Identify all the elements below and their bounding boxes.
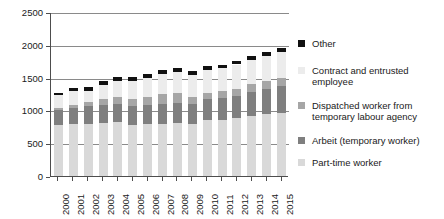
x-tick-label: 2002: [91, 194, 101, 215]
bar-segment[interactable]: [203, 120, 212, 176]
bar-segment[interactable]: [84, 87, 93, 91]
bar-segment[interactable]: [173, 103, 182, 123]
bar-segment[interactable]: [232, 89, 241, 96]
bar-segment[interactable]: [128, 106, 137, 124]
bar-segment[interactable]: [277, 78, 286, 87]
bar-segment[interactable]: [69, 88, 78, 91]
bar-segment[interactable]: [158, 74, 167, 94]
bar-segment[interactable]: [247, 56, 256, 60]
bar-segment[interactable]: [128, 81, 137, 99]
bar-segment[interactable]: [99, 81, 108, 85]
bar-segment[interactable]: [218, 120, 227, 176]
bar-segment[interactable]: [262, 56, 271, 81]
bar-segment[interactable]: [173, 68, 182, 72]
bar-segment[interactable]: [84, 124, 93, 176]
bar-segment[interactable]: [247, 92, 256, 116]
bar-segment[interactable]: [277, 113, 286, 176]
bar-segment[interactable]: [143, 74, 152, 78]
bar-segment[interactable]: [173, 72, 182, 93]
bar-segment[interactable]: [218, 98, 227, 120]
x-tick-label: 2012: [240, 194, 250, 215]
bar-segment[interactable]: [277, 48, 286, 52]
stacked-bar-chart: OtherContract and entrusted employeeDisp…: [0, 0, 444, 219]
bar-segment[interactable]: [69, 91, 78, 104]
x-tick-label: 2003: [106, 194, 116, 215]
bar-segment[interactable]: [158, 104, 167, 124]
bar-segment[interactable]: [232, 61, 241, 65]
bar-segment[interactable]: [54, 125, 63, 176]
bar-segment[interactable]: [113, 97, 122, 104]
bar-segment[interactable]: [188, 124, 197, 176]
bar-segment[interactable]: [54, 93, 63, 96]
legend-swatch-icon: [298, 137, 305, 144]
bar-segment[interactable]: [232, 96, 241, 118]
bar-segment[interactable]: [128, 77, 137, 81]
bar-segment[interactable]: [113, 77, 122, 81]
bar-segment[interactable]: [69, 105, 78, 108]
bar-segment[interactable]: [99, 85, 108, 99]
bar-segment[interactable]: [262, 89, 271, 115]
bar-segment[interactable]: [188, 104, 197, 124]
bar-segment[interactable]: [203, 93, 212, 100]
bar-segment[interactable]: [99, 99, 108, 105]
bar-segment[interactable]: [203, 66, 212, 70]
bar-segment[interactable]: [84, 102, 93, 107]
bar-segment[interactable]: [69, 108, 78, 124]
bar-segment[interactable]: [262, 81, 271, 89]
x-tick-label: 2015: [285, 194, 295, 215]
x-tick-mark: [102, 177, 103, 181]
legend-label: Part-time worker: [312, 157, 382, 168]
bar-segment[interactable]: [158, 124, 167, 176]
bar-segment[interactable]: [84, 106, 93, 123]
bar-segment[interactable]: [232, 65, 241, 89]
bar-segment[interactable]: [54, 95, 63, 107]
legend-swatch-icon: [298, 102, 305, 109]
bar-segment[interactable]: [158, 94, 167, 104]
bar-segment[interactable]: [143, 105, 152, 124]
bar-segment[interactable]: [218, 91, 227, 98]
legend-item[interactable]: Part-time worker: [298, 157, 382, 168]
bar-segment[interactable]: [247, 60, 256, 84]
x-tick-label: 2005: [136, 194, 146, 215]
bar-segment[interactable]: [203, 99, 212, 120]
bar-segment[interactable]: [218, 68, 227, 91]
bar-segment[interactable]: [277, 86, 286, 113]
bar-segment[interactable]: [232, 118, 241, 176]
bar-segment[interactable]: [188, 71, 197, 75]
bar-segment[interactable]: [218, 65, 227, 69]
bar-segment[interactable]: [99, 123, 108, 176]
bar-segment[interactable]: [69, 124, 78, 176]
bar-segment[interactable]: [158, 70, 167, 74]
bar-segment[interactable]: [113, 122, 122, 176]
y-tick-label: 2500: [22, 8, 43, 18]
bar-segment[interactable]: [143, 78, 152, 97]
legend-item[interactable]: Contract and entrusted employee: [298, 65, 409, 87]
bar-segment[interactable]: [173, 123, 182, 176]
bar-segment[interactable]: [113, 104, 122, 122]
bar-segment[interactable]: [188, 75, 197, 97]
legend-item[interactable]: Dispatched worker from temporary labour …: [298, 100, 417, 122]
bar-segment[interactable]: [99, 105, 108, 123]
bar-segment[interactable]: [128, 125, 137, 176]
bar-segment[interactable]: [84, 91, 93, 101]
bar-segment[interactable]: [203, 70, 212, 92]
bar-segment[interactable]: [173, 93, 182, 102]
legend-item[interactable]: Other: [298, 38, 336, 49]
x-tick-mark: [117, 177, 118, 181]
bar-segment[interactable]: [54, 110, 63, 125]
bar-segment[interactable]: [128, 99, 137, 106]
gridline: [51, 46, 289, 47]
bar-segment[interactable]: [54, 108, 63, 110]
bar-segment[interactable]: [113, 81, 122, 97]
bar-segment[interactable]: [188, 97, 197, 104]
x-tick-mark: [191, 177, 192, 181]
bar-segment[interactable]: [143, 97, 152, 106]
bar-segment[interactable]: [262, 52, 271, 56]
bar-segment[interactable]: [277, 52, 286, 78]
bar-segment[interactable]: [247, 84, 256, 92]
bar-segment[interactable]: [247, 116, 256, 176]
legend-label: Dispatched worker from temporary labour …: [312, 100, 417, 122]
bar-segment[interactable]: [143, 124, 152, 176]
bar-segment[interactable]: [262, 114, 271, 176]
legend-item[interactable]: Arbeit (temporary worker): [298, 135, 420, 146]
